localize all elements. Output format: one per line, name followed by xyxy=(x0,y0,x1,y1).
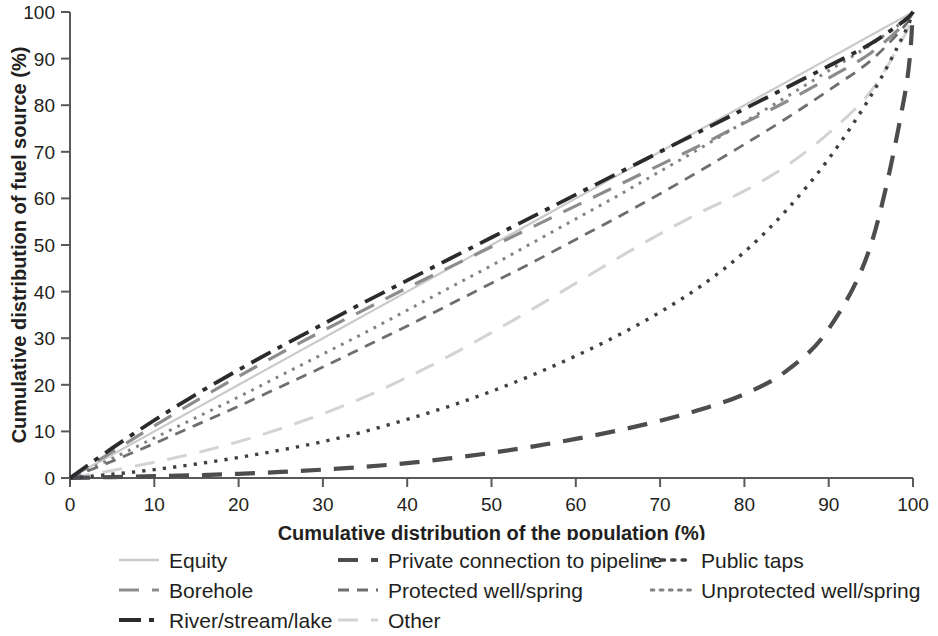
legend-swatch-icon xyxy=(650,553,692,567)
y-tick-label: 30 xyxy=(34,328,55,349)
y-tick-label: 50 xyxy=(34,235,55,256)
y-tick-label: 0 xyxy=(44,468,55,489)
y-tick-label: 60 xyxy=(34,188,55,209)
x-tick-label: 70 xyxy=(650,494,671,515)
y-tick-label: 100 xyxy=(23,2,55,23)
x-tick-label: 80 xyxy=(734,494,755,515)
x-tick-label: 90 xyxy=(818,494,839,515)
series-line-equity xyxy=(70,12,913,478)
legend-swatch-icon xyxy=(337,583,379,597)
legend-label: Private connection to pipeline xyxy=(388,550,662,571)
legend-label: Unprotected well/spring xyxy=(701,580,920,601)
y-tick-label: 40 xyxy=(34,282,55,303)
legend-swatch-icon xyxy=(337,553,379,567)
legend-label: Equity xyxy=(169,550,227,571)
y-tick-label: 70 xyxy=(34,142,55,163)
legend-label: Other xyxy=(388,610,441,631)
legend-item-public-taps[interactable]: Public taps xyxy=(650,545,804,575)
legend-label: Borehole xyxy=(169,580,253,601)
legend-item-private-connection-to-pipeline[interactable]: Private connection to pipeline xyxy=(337,545,662,575)
legend-swatch-icon xyxy=(650,583,692,597)
x-tick-label: 10 xyxy=(144,494,165,515)
y-tick-label: 20 xyxy=(34,375,55,396)
chart-legend: EquityBoreholeRiver/stream/lakePrivate c… xyxy=(0,545,938,636)
x-tick-label: 100 xyxy=(897,494,929,515)
legend-item-borehole[interactable]: Borehole xyxy=(118,575,253,605)
x-tick-label: 60 xyxy=(565,494,586,515)
legend-item-equity[interactable]: Equity xyxy=(118,545,227,575)
legend-swatch-icon xyxy=(118,613,160,627)
legend-swatch-icon xyxy=(118,553,160,567)
x-tick-label: 40 xyxy=(397,494,418,515)
legend-swatch-icon xyxy=(337,613,379,627)
x-tick-label: 50 xyxy=(481,494,502,515)
legend-item-unprotected-well-spring[interactable]: Unprotected well/spring xyxy=(650,575,920,605)
y-tick-label: 10 xyxy=(34,421,55,442)
legend-item-river-stream-lake[interactable]: River/stream/lake xyxy=(118,605,332,635)
legend-item-protected-well-spring[interactable]: Protected well/spring xyxy=(337,575,583,605)
y-tick-label: 80 xyxy=(34,95,55,116)
legend-item-other[interactable]: Other xyxy=(337,605,441,635)
y-tick-label: 90 xyxy=(34,49,55,70)
legend-label: Protected well/spring xyxy=(388,580,583,601)
axis-labels: 0102030405060708090100010203040506070809… xyxy=(8,2,929,540)
x-tick-label: 30 xyxy=(312,494,333,515)
legend-label: Public taps xyxy=(701,550,804,571)
series-lines xyxy=(70,12,913,478)
x-tick-label: 0 xyxy=(65,494,76,515)
x-axis-title: Cumulative distribution of the populatio… xyxy=(278,522,706,540)
x-tick-label: 20 xyxy=(228,494,249,515)
legend-label: River/stream/lake xyxy=(169,610,332,631)
legend-swatch-icon xyxy=(118,583,160,597)
y-axis-title: Cumulative distribution of fuel source (… xyxy=(8,47,30,444)
chart-plot-area: 0102030405060708090100010203040506070809… xyxy=(0,0,938,540)
lorenz-curve-figure: 0102030405060708090100010203040506070809… xyxy=(0,0,938,636)
